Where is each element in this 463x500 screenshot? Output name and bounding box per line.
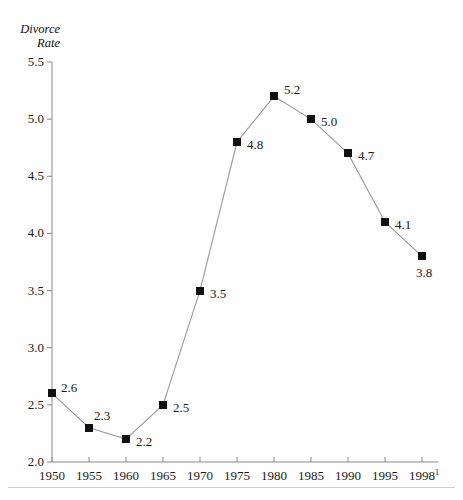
data-point-label: 3.8 (416, 265, 432, 281)
data-point-marker (122, 435, 130, 443)
data-point-marker (48, 389, 56, 397)
data-point-marker (418, 252, 426, 260)
divorce-rate-line-chart: Divorce Rate 2.62.32.22.53.54.85.25.04.7… (0, 0, 463, 500)
footer-divider (8, 487, 455, 488)
data-point-label: 4.7 (358, 148, 374, 164)
data-point-marker (307, 115, 315, 123)
data-point-marker (270, 92, 278, 100)
y-axis-tick-label: 5.5 (10, 54, 44, 70)
y-axis-tick-label: 2.5 (10, 397, 44, 413)
data-point-label: 5.0 (321, 114, 337, 130)
x-axis-tick-label: 1995 (363, 468, 407, 484)
x-axis-tick-label: 19981 (402, 468, 446, 484)
plot-area (0, 0, 463, 500)
y-axis-tick-label: 3.5 (10, 283, 44, 299)
data-point-label: 3.5 (210, 286, 226, 302)
x-axis-footnote-marker: 1 (435, 468, 439, 477)
data-point-marker (196, 287, 204, 295)
y-axis-tick-label: 3.0 (10, 340, 44, 356)
data-point-marker (85, 424, 93, 432)
data-point-label: 4.8 (247, 137, 263, 153)
data-point-label: 2.2 (136, 434, 152, 450)
data-point-label: 4.1 (395, 217, 411, 233)
y-axis-tick-label: 5.0 (10, 111, 44, 127)
data-point-marker (233, 138, 241, 146)
data-point-label: 2.6 (61, 380, 77, 396)
data-point-label: 2.5 (173, 400, 189, 416)
y-axis-tick-label: 4.5 (10, 168, 44, 184)
data-point-marker (381, 218, 389, 226)
y-axis-tick-label: 4.0 (10, 225, 44, 241)
data-point-marker (344, 149, 352, 157)
data-point-label: 2.3 (94, 408, 110, 424)
data-point-label: 5.2 (284, 82, 300, 98)
data-point-marker (159, 401, 167, 409)
